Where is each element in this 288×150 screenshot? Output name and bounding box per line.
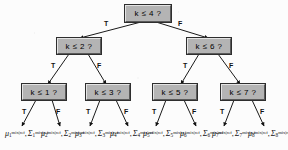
- tree-edges: [0, 0, 288, 150]
- decision-node-k-le-3[interactable]: k ≤ 3 ?: [86, 84, 130, 100]
- branch-label-root-true: T: [104, 20, 108, 27]
- decision-node-k-le-5[interactable]: k ≤ 5 ?: [153, 84, 197, 100]
- edge-l1t-false: [88, 54, 106, 84]
- branch-label-l2tf-false: F: [124, 108, 128, 115]
- branch-label-l2ft-false: F: [192, 108, 196, 115]
- edge-l2tf-true: [90, 100, 100, 126]
- branch-label-l1f-true: T: [183, 62, 187, 69]
- edge-root-true: [80, 22, 141, 38]
- decision-node-k-le-6[interactable]: k ≤ 6 ?: [187, 38, 231, 54]
- branch-label-l2tt-true: T: [22, 108, 26, 115]
- decision-node-root[interactable]: k ≤ 4 ?: [125, 5, 171, 22]
- branch-label-l2ff-false: F: [260, 108, 264, 115]
- leaf-node-8: μ8mix|ref,Σ8mix|ref: [248, 129, 288, 138]
- edge-l2ft-true: [156, 100, 166, 126]
- edge-l1f-false: [218, 54, 240, 84]
- branch-label-l2ff-true: T: [220, 108, 224, 115]
- branch-label-l2tf-true: T: [86, 108, 90, 115]
- branch-label-l2tt-false: F: [56, 108, 60, 115]
- decision-node-k-le-1[interactable]: k ≤ 1 ?: [22, 84, 66, 100]
- decision-tree-figure: k ≤ 4 ? k ≤ 2 ? k ≤ 6 ? k ≤ 1 ? k ≤ 3 ? …: [0, 0, 288, 150]
- branch-label-l1t-false: F: [97, 62, 101, 69]
- decision-node-k-le-7[interactable]: k ≤ 7 ?: [221, 84, 265, 100]
- branch-label-l1f-false: F: [229, 62, 233, 69]
- edge-l1t-true: [48, 54, 69, 84]
- edge-l2ff-true: [224, 100, 234, 126]
- branch-label-root-false: F: [178, 20, 182, 27]
- decision-node-k-le-2[interactable]: k ≤ 2 ?: [57, 38, 101, 54]
- edge-l1f-true: [181, 54, 199, 84]
- branch-label-l1t-true: T: [51, 62, 55, 69]
- branch-label-l2ft-true: T: [152, 108, 156, 115]
